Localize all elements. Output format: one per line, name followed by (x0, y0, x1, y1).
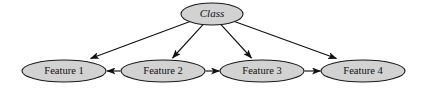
edge-class-to-feature3 (221, 25, 252, 58)
edge-class-to-feature2 (173, 25, 204, 58)
edge-layer (91, 22, 337, 72)
node-class-label: Class (200, 7, 224, 19)
edge-class-to-feature1 (91, 22, 191, 59)
node-feature2-label: Feature 2 (143, 65, 182, 76)
node-class[interactable]: Class (181, 3, 243, 25)
node-feature2[interactable]: Feature 2 (121, 60, 205, 82)
bayesian-network-diagram: Class Feature 1 Feature 2 Feature 3 Feat… (0, 0, 425, 90)
node-feature4-label: Feature 4 (343, 65, 383, 76)
node-feature4[interactable]: Feature 4 (321, 60, 405, 82)
node-layer: Class Feature 1 Feature 2 Feature 3 Feat… (22, 3, 405, 82)
node-feature1[interactable]: Feature 1 (22, 60, 106, 82)
edge-class-to-feature4 (235, 22, 337, 59)
node-feature1-label: Feature 1 (44, 65, 83, 76)
diagram-canvas: Class Feature 1 Feature 2 Feature 3 Feat… (0, 0, 425, 90)
node-feature3[interactable]: Feature 3 (220, 60, 304, 82)
node-feature3-label: Feature 3 (242, 65, 281, 76)
